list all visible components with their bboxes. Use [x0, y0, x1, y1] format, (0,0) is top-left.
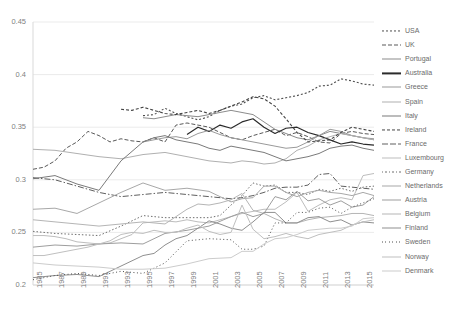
- legend-line-swatch: [382, 154, 401, 162]
- x-axis-tick-label: 2015: [366, 271, 374, 288]
- series-line-netherlands: [33, 183, 374, 214]
- legend-item-greece[interactable]: Greece: [382, 80, 449, 94]
- legend-line-swatch: [382, 238, 401, 246]
- series-line-denmark: [33, 218, 374, 270]
- y-axis-tick-label: 0.35: [0, 123, 26, 131]
- chart-legend: USAUKPortugalAustraliaGreeceSpainItalyIr…: [382, 24, 449, 278]
- legend-item-label: Greece: [405, 83, 428, 91]
- legend-line-swatch: [382, 41, 401, 49]
- legend-line-swatch: [382, 196, 401, 204]
- y-axis-tick-label: 0.4: [0, 71, 26, 79]
- x-axis-tick-label: 1997: [168, 271, 176, 288]
- legend-item-label: Ireland: [405, 126, 426, 134]
- legend-item-luxembourg[interactable]: Luxembourg: [382, 151, 449, 165]
- legend-item-australia[interactable]: Australia: [382, 66, 449, 80]
- legend-item-label: Belgium: [405, 210, 430, 218]
- x-axis-tick-label: 2005: [256, 271, 264, 288]
- legend-item-norway[interactable]: Norway: [382, 250, 449, 264]
- legend-line-swatch: [382, 27, 401, 35]
- x-axis-tick-label: 2001: [212, 271, 220, 288]
- legend-item-label: Finland: [405, 224, 428, 232]
- legend-line-swatch: [382, 83, 401, 91]
- legend-line-swatch: [382, 140, 401, 148]
- legend-line-swatch: [382, 98, 401, 106]
- series-line-greece: [143, 129, 374, 148]
- line-chart: 0.20.250.30.350.40.45 198519871989199119…: [0, 0, 449, 310]
- x-axis-tick-label: 1995: [146, 271, 154, 288]
- legend-item-netherlands[interactable]: Netherlands: [382, 179, 449, 193]
- series-line-sweden: [33, 199, 374, 280]
- x-axis-tick-label: 1985: [36, 271, 44, 288]
- legend-line-swatch: [382, 168, 401, 176]
- series-line-norway: [33, 205, 374, 255]
- legend-item-label: Portugal: [405, 55, 431, 63]
- legend-line-swatch: [382, 267, 401, 275]
- series-lines: [33, 79, 374, 280]
- x-axis-tick-label: 2009: [300, 271, 308, 288]
- legend-item-label: France: [405, 140, 427, 148]
- series-line-austria: [33, 191, 374, 247]
- y-axis-tick-label: 0.2: [0, 281, 26, 289]
- y-axis-tick-label: 0.3: [0, 176, 26, 184]
- legend-line-swatch: [382, 55, 401, 63]
- x-axis-tick-label: 2003: [234, 271, 242, 288]
- legend-item-austria[interactable]: Austria: [382, 193, 449, 207]
- legend-line-swatch: [382, 210, 401, 218]
- y-axis-tick-label: 0.25: [0, 228, 26, 236]
- x-axis-tick-label: 2007: [278, 271, 286, 288]
- series-line-italy: [33, 136, 374, 191]
- legend-item-usa[interactable]: USA: [382, 24, 449, 38]
- x-axis-tick-label: 2011: [322, 272, 330, 288]
- legend-item-label: Sweden: [405, 238, 430, 246]
- legend-item-denmark[interactable]: Denmark: [382, 264, 449, 278]
- legend-item-belgium[interactable]: Belgium: [382, 207, 449, 221]
- legend-item-portugal[interactable]: Portugal: [382, 52, 449, 66]
- legend-item-label: UK: [405, 41, 415, 49]
- legend-item-label: Netherlands: [405, 182, 443, 190]
- legend-item-label: Spain: [405, 98, 423, 106]
- legend-item-finland[interactable]: Finland: [382, 221, 449, 235]
- legend-item-germany[interactable]: Germany: [382, 165, 449, 179]
- legend-item-label: Denmark: [405, 267, 433, 275]
- legend-line-swatch: [382, 126, 401, 134]
- legend-item-uk[interactable]: UK: [382, 38, 449, 52]
- legend-item-label: Italy: [405, 112, 418, 120]
- legend-line-swatch: [382, 69, 401, 77]
- legend-item-label: USA: [405, 27, 419, 35]
- legend-item-sweden[interactable]: Sweden: [382, 235, 449, 249]
- legend-item-label: Germany: [405, 168, 434, 176]
- x-axis-tick-label: 1991: [102, 271, 110, 288]
- legend-line-swatch: [382, 182, 401, 190]
- x-axis-tick-label: 1987: [58, 271, 66, 288]
- x-axis-tick-label: 1999: [190, 271, 198, 288]
- legend-item-label: Luxembourg: [405, 154, 444, 162]
- series-line-spain: [33, 134, 374, 165]
- x-axis-tick-label: 1993: [124, 271, 132, 288]
- legend-item-label: Australia: [405, 69, 432, 77]
- legend-item-label: Austria: [405, 196, 427, 204]
- legend-line-swatch: [382, 112, 401, 120]
- legend-line-swatch: [382, 253, 401, 261]
- y-axis-tick-label: 0.45: [0, 18, 26, 26]
- legend-item-italy[interactable]: Italy: [382, 109, 449, 123]
- x-axis-tick-label: 1989: [80, 271, 88, 288]
- legend-item-spain[interactable]: Spain: [382, 94, 449, 108]
- series-line-ireland: [121, 97, 374, 142]
- x-axis-tick-label: 2013: [344, 271, 352, 288]
- legend-item-ireland[interactable]: Ireland: [382, 123, 449, 137]
- legend-item-label: Norway: [405, 253, 429, 261]
- legend-item-france[interactable]: France: [382, 137, 449, 151]
- legend-line-swatch: [382, 224, 401, 232]
- series-line-usa: [143, 79, 374, 120]
